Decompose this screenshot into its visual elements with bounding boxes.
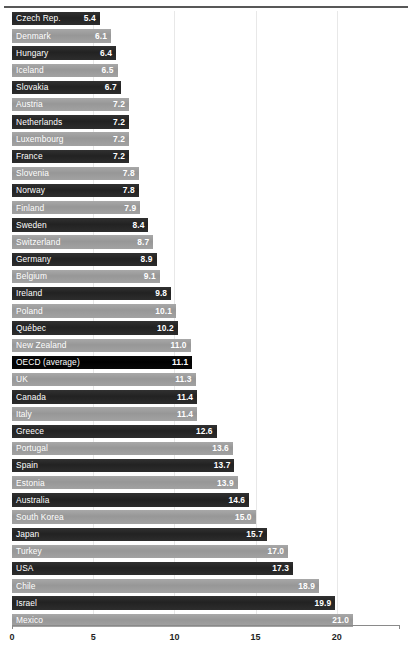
bar-oecd-average: OECD (average)11.1: [12, 356, 192, 369]
bar-estonia: Estonia13.9: [12, 476, 238, 489]
bar-slovenia: Slovenia7.8: [12, 167, 139, 180]
bar-belgium: Belgium9.1: [12, 270, 160, 283]
bar-value-label: 11.4: [177, 393, 193, 401]
bar-row: Spain13.7: [0, 458, 413, 475]
bar-value-label: 12.6: [196, 427, 213, 435]
bar-value-label: 7.9: [124, 204, 136, 212]
bar-switzerland: Switzerland8.7: [12, 235, 153, 248]
bar-value-label: 5.4: [84, 14, 96, 22]
bar-category-label: Poland: [16, 307, 43, 315]
bar-category-label: Estonia: [16, 479, 45, 487]
bar-value-label: 19.9: [314, 599, 331, 607]
bar-value-label: 13.7: [214, 461, 231, 469]
bar-value-label: 13.9: [217, 479, 234, 487]
bar-category-label: Luxembourg: [16, 135, 64, 143]
bar-netherlands: Netherlands7.2: [12, 115, 129, 128]
bar-value-label: 17.0: [267, 547, 284, 555]
bar-value-label: 18.9: [298, 582, 315, 590]
bar-canada: Canada11.4: [12, 390, 197, 403]
bar-row: Switzerland8.7: [0, 234, 413, 251]
bar-value-label: 11.1: [172, 358, 188, 366]
bar-value-label: 14.6: [228, 496, 245, 504]
bar-category-label: Slovenia: [16, 169, 49, 177]
bar-row: Germany8.9: [0, 252, 413, 269]
bar-value-label: 7.2: [113, 100, 125, 108]
bar-row: Italy11.4: [0, 406, 413, 423]
bar-france: France7.2: [12, 150, 129, 163]
bar-category-label: Slovakia: [16, 83, 48, 91]
bar-value-label: 8.9: [141, 255, 153, 263]
bar-category-label: USA: [16, 564, 34, 572]
bar-value-label: 11.3: [175, 375, 191, 383]
bar-row: Chile18.9: [0, 578, 413, 595]
bar-uk: UK11.3: [12, 373, 196, 386]
bar-row: Greece12.6: [0, 424, 413, 441]
bar-row: New Zealand11.0: [0, 338, 413, 355]
bar-category-label: Italy: [16, 410, 32, 418]
bar-chart: Czech Rep.5.4Denmark6.1Hungary6.4Iceland…: [0, 0, 413, 648]
bar-row: Luxembourg7.2: [0, 131, 413, 148]
bar-category-label: Japan: [16, 530, 39, 538]
bar-category-label: Finland: [16, 204, 44, 212]
x-axis-cap-left: [12, 625, 13, 629]
bar-category-label: Austria: [16, 100, 43, 108]
bar-value-label: 6.5: [102, 66, 114, 74]
bar-category-label: South Korea: [16, 513, 64, 521]
bar-category-label: Sweden: [16, 221, 47, 229]
bar-row: Portugal13.6: [0, 441, 413, 458]
bar-spain: Spain13.7: [12, 459, 234, 472]
x-axis: 05101520: [0, 625, 413, 648]
bar-italy: Italy11.4: [12, 407, 197, 420]
bar-row: South Korea15.0: [0, 509, 413, 526]
bar-category-label: Turkey: [16, 547, 42, 555]
bar-value-label: 7.8: [123, 169, 135, 177]
plot-area: Czech Rep.5.4Denmark6.1Hungary6.4Iceland…: [0, 11, 413, 625]
bar-category-label: Canada: [16, 393, 46, 401]
bar-value-label: 6.1: [95, 32, 107, 40]
bar-category-label: Spain: [16, 461, 38, 469]
bar-category-label: Israel: [16, 599, 37, 607]
bar-slovakia: Slovakia6.7: [12, 81, 121, 94]
bar-value-label: 15.0: [235, 513, 252, 521]
bar-row: Sweden8.4: [0, 217, 413, 234]
bar-rows: Czech Rep.5.4Denmark6.1Hungary6.4Iceland…: [0, 11, 413, 630]
bar-row: OECD (average)11.1: [0, 355, 413, 372]
bar-row: Estonia13.9: [0, 475, 413, 492]
bar-norway: Norway7.8: [12, 184, 139, 197]
bar-value-label: 9.1: [144, 272, 156, 280]
bar-row: Finland7.9: [0, 200, 413, 217]
bar-value-label: 15.7: [246, 530, 263, 538]
bar-row: Canada11.4: [0, 389, 413, 406]
bar-chile: Chile18.9: [12, 579, 319, 592]
bar-poland: Poland10.1: [12, 304, 176, 317]
bar-row: Slovenia7.8: [0, 166, 413, 183]
bar-row: Netherlands7.2: [0, 114, 413, 131]
title-divider: [4, 6, 408, 8]
bar-greece: Greece12.6: [12, 425, 217, 438]
chart-title-clipped: [0, 0, 413, 5]
bar-row: Belgium9.1: [0, 269, 413, 286]
x-axis-cap-right: [399, 625, 400, 629]
bar-hungary: Hungary6.4: [12, 46, 116, 59]
bar-row: Iceland6.5: [0, 63, 413, 80]
bar-value-label: 11.4: [177, 410, 193, 418]
bar-value-label: 6.7: [105, 83, 117, 91]
bar-row: USA17.3: [0, 561, 413, 578]
bar-czech-rep: Czech Rep.5.4: [12, 12, 100, 25]
x-axis-line: [12, 625, 400, 626]
bar-value-label: 7.2: [113, 135, 125, 143]
bar-category-label: Iceland: [16, 66, 44, 74]
bar-denmark: Denmark6.1: [12, 29, 111, 42]
bar-qu-bec: Québec10.2: [12, 321, 178, 334]
bar-austria: Austria7.2: [12, 98, 129, 111]
bar-usa: USA17.3: [12, 562, 293, 575]
bar-iceland: Iceland6.5: [12, 64, 118, 77]
bar-australia: Australia14.6: [12, 493, 249, 506]
bar-south-korea: South Korea15.0: [12, 510, 256, 523]
bar-category-label: Australia: [16, 496, 49, 504]
bar-row: France7.2: [0, 149, 413, 166]
bar-category-label: UK: [16, 375, 28, 383]
bar-row: Israel19.9: [0, 595, 413, 612]
bar-value-label: 7.2: [113, 118, 125, 126]
bar-category-label: Switzerland: [16, 238, 60, 246]
